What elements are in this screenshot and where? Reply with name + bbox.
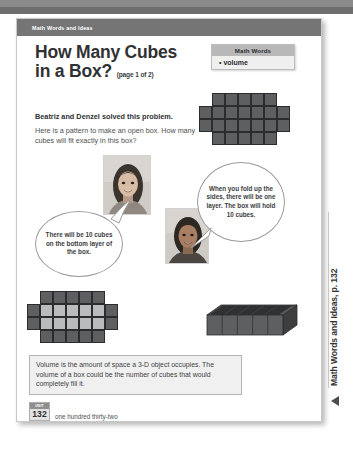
running-head: Math Words and Ideas bbox=[17, 19, 322, 36]
folio-tab: UNIT 132 bbox=[29, 402, 50, 421]
net-flap-cell bbox=[277, 119, 290, 132]
net-cell bbox=[92, 304, 105, 317]
net-cell bbox=[53, 304, 66, 317]
net-cell bbox=[264, 106, 277, 119]
cube-net-pattern bbox=[199, 93, 303, 149]
net-cell bbox=[225, 106, 238, 119]
definition-text: Volume is the amount of space a 3-D obje… bbox=[36, 360, 235, 389]
window-top-band-highlight bbox=[0, 0, 353, 7]
cube-net-pattern-highlighted bbox=[27, 291, 131, 347]
page-footer: UNIT 132 one hundred thirty-two bbox=[29, 402, 118, 421]
net-flap-cell bbox=[199, 106, 212, 119]
folio-page-number: 132 bbox=[30, 409, 49, 421]
open-box-3d-svg bbox=[187, 301, 307, 356]
net-flap-cell bbox=[105, 304, 118, 317]
folio-page-words: one hundred thirty-two bbox=[55, 413, 118, 421]
page-title-line-2: in a Box? (page 1 of 2) bbox=[35, 62, 215, 84]
margin-tab: Math Words and Ideas, p. 132 bbox=[326, 214, 342, 386]
intro-bold-text: Beatriz and Denzel solved this problem. bbox=[35, 112, 225, 121]
window-top-band bbox=[0, 0, 353, 14]
net-cell bbox=[79, 317, 92, 330]
speech-bubble-left-tail bbox=[109, 197, 135, 227]
left-triangle-icon bbox=[331, 396, 339, 406]
bullet-icon: • bbox=[219, 59, 221, 66]
net-cell bbox=[225, 132, 238, 145]
net-flap-cell bbox=[199, 119, 212, 132]
net-cell bbox=[264, 93, 277, 106]
math-words-item-label: volume bbox=[223, 59, 248, 66]
net-cell bbox=[238, 119, 251, 132]
net-cell bbox=[53, 330, 66, 343]
net-cell bbox=[264, 119, 277, 132]
net-cell bbox=[92, 291, 105, 304]
intro-body-text: Here is a pattern to make an open box. H… bbox=[35, 126, 203, 146]
textbook-page: Math Words and Ideas How Many Cubes in a… bbox=[16, 18, 322, 422]
page-of-label: (page 1 of 2) bbox=[117, 71, 154, 78]
math-words-item-volume: • volume bbox=[212, 56, 294, 69]
net-cell bbox=[251, 106, 264, 119]
net-cell bbox=[225, 93, 238, 106]
net-flap-cell bbox=[105, 317, 118, 330]
net-cell bbox=[238, 132, 251, 145]
net-cell bbox=[251, 132, 264, 145]
net-cell bbox=[66, 330, 79, 343]
net-flap-cell bbox=[27, 317, 40, 330]
page-title-line-2-text: in a Box? bbox=[35, 61, 112, 81]
net-cell bbox=[212, 119, 225, 132]
speech-bubble-right-tail bbox=[189, 224, 213, 252]
net-cell bbox=[66, 291, 79, 304]
net-cell bbox=[66, 317, 79, 330]
net-cell bbox=[212, 93, 225, 106]
net-cell bbox=[92, 330, 105, 343]
net-cell bbox=[251, 119, 264, 132]
net-cell bbox=[225, 119, 238, 132]
math-words-heading: Math Words bbox=[212, 45, 294, 56]
net-cell bbox=[40, 317, 53, 330]
speech-bubble-right-text: When you fold up the sides, there will b… bbox=[198, 185, 284, 219]
net-cell bbox=[66, 304, 79, 317]
net-cell bbox=[40, 291, 53, 304]
net-cell bbox=[264, 132, 277, 145]
page-title-line-1: How Many Cubes bbox=[35, 43, 215, 62]
running-head-label: Math Words and Ideas bbox=[32, 25, 93, 31]
speech-bubble-left-text: There will be 10 cubes on the bottom lay… bbox=[36, 231, 122, 257]
net-cell bbox=[79, 330, 92, 343]
net-cell bbox=[53, 317, 66, 330]
page-title: How Many Cubes in a Box? (page 1 of 2) bbox=[35, 43, 215, 84]
net-cell bbox=[212, 132, 225, 145]
net-cell bbox=[40, 330, 53, 343]
net-cell bbox=[238, 106, 251, 119]
definition-box: Volume is the amount of space a 3-D obje… bbox=[29, 355, 242, 395]
net-cell bbox=[79, 291, 92, 304]
net-flap-cell bbox=[277, 106, 290, 119]
margin-tab-label: Math Words and Ideas, p. 132 bbox=[326, 214, 342, 386]
net-cell bbox=[212, 106, 225, 119]
net-cell bbox=[92, 317, 105, 330]
open-box-3d bbox=[187, 301, 307, 356]
net-flap-cell bbox=[27, 304, 40, 317]
net-cell bbox=[238, 93, 251, 106]
net-cell bbox=[251, 93, 264, 106]
net-cell bbox=[40, 304, 53, 317]
net-cell bbox=[53, 291, 66, 304]
math-words-box: Math Words • volume bbox=[211, 44, 295, 70]
net-cell bbox=[79, 304, 92, 317]
